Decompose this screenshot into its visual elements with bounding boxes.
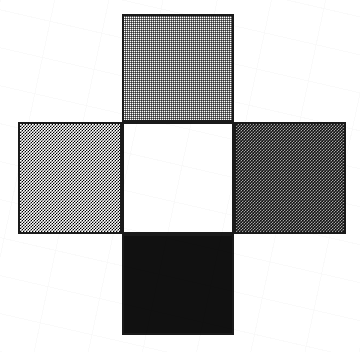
net-square-top bbox=[122, 14, 234, 122]
net-square-left bbox=[18, 122, 122, 234]
net-square-right bbox=[234, 122, 346, 234]
net-square-bottom bbox=[122, 234, 234, 335]
cube-net-figure bbox=[0, 0, 360, 352]
net-square-center bbox=[122, 122, 234, 234]
